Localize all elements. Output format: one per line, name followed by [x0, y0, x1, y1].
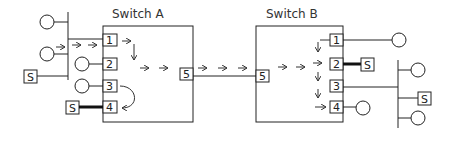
switch-a-port-5: 5 [180, 68, 193, 81]
svg-text:4: 4 [333, 101, 340, 114]
server-node: S [24, 70, 37, 84]
switch-b-port-4-host [343, 101, 370, 115]
switch-b: Switch B 5 1 2 3 4 [256, 7, 343, 122]
svg-text:S: S [364, 59, 371, 72]
svg-text:S: S [27, 71, 34, 84]
server-node: S [418, 92, 431, 106]
switch-b-port-3: 3 [330, 80, 343, 93]
host-node [40, 15, 54, 29]
svg-text:3: 3 [106, 80, 113, 93]
switch-a-title: Switch A [112, 7, 164, 21]
host-node [411, 63, 425, 77]
switch-b-port-2: 2 [330, 58, 343, 71]
svg-text:5: 5 [259, 70, 266, 83]
svg-text:S: S [69, 102, 76, 115]
svg-text:4: 4 [106, 101, 113, 114]
host-node [411, 111, 425, 125]
svg-text:1: 1 [333, 34, 340, 47]
switch-a-port-1: 1 [103, 34, 117, 47]
switch-b-port-5: 5 [256, 70, 269, 83]
switch-b-port-2-server: S [343, 58, 374, 72]
svg-text:5: 5 [183, 68, 190, 81]
switch-b-port-1: 1 [330, 34, 343, 47]
switch-a-port-2-host [75, 57, 103, 71]
switch-b-port-4: 4 [330, 101, 343, 114]
svg-text:2: 2 [106, 58, 113, 71]
switch-a-port-4-server: S [66, 101, 103, 115]
switch-a-left-segment: S [24, 12, 103, 84]
switch-a-port-4: 4 [103, 101, 117, 114]
switch-b-port-1-host [343, 33, 406, 47]
svg-text:2: 2 [333, 58, 340, 71]
host-node [40, 47, 54, 61]
switch-b-port-3-segment: S [343, 60, 431, 128]
switch-b-title: Switch B [266, 7, 318, 21]
trunk-link [193, 68, 256, 76]
svg-text:3: 3 [333, 80, 340, 93]
switch-a: Switch A 1 2 3 4 5 [103, 7, 193, 122]
network-switch-diagram: Switch A 1 2 3 4 5 [0, 0, 452, 144]
svg-text:S: S [421, 93, 428, 106]
switch-a-port-3: 3 [103, 80, 117, 93]
switch-a-port-3-host [75, 79, 103, 93]
switch-a-port-2: 2 [103, 58, 117, 71]
svg-text:1: 1 [106, 34, 113, 47]
